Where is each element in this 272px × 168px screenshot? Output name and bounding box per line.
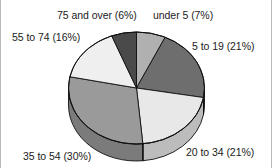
pie-label-5-to-19: 5 to 19 (21%) — [192, 41, 254, 52]
pie-plot-area: under 5 (7%) 5 to 19 (21%) 20 to 34 (21%… — [1, 0, 272, 168]
pie-chart-graphic — [1, 0, 272, 168]
pie-label-20-to-34: 20 to 34 (21%) — [186, 147, 254, 158]
pie-label-under-5: under 5 (7%) — [153, 10, 213, 21]
pie-chart-figure: under 5 (7%) 5 to 19 (21%) 20 to 34 (21%… — [0, 0, 272, 168]
pie-label-55-to-74: 55 to 74 (16%) — [12, 32, 80, 43]
pie-label-35-to-54: 35 to 54 (30%) — [23, 151, 91, 162]
pie-label-75-and-over: 75 and over (6%) — [57, 10, 137, 21]
